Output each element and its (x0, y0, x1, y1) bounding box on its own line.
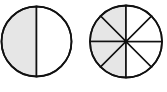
shaded-sector (2, 7, 37, 77)
circle-halves (2, 7, 72, 77)
circle-eighths (90, 6, 162, 78)
fraction-circles-canvas (0, 0, 167, 92)
unshaded-sector (37, 7, 72, 77)
